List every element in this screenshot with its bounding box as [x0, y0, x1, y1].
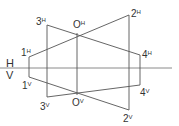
- axis-label-v: V: [6, 70, 13, 80]
- point-label-1H: 1H: [21, 48, 31, 58]
- point-label-3H: 3H: [36, 17, 46, 27]
- point-label-3V: 3V: [40, 102, 50, 112]
- line-3V-4V: [47, 85, 140, 97]
- point-label-2V: 2V: [123, 114, 133, 124]
- point-label-4V: 4V: [140, 88, 150, 98]
- point-label-OV: OV: [72, 98, 84, 108]
- point-label-4H: 4H: [142, 50, 152, 60]
- projection-diagram: [0, 0, 179, 126]
- point-label-1V: 1V: [22, 81, 32, 91]
- point-label-2H: 2H: [131, 9, 141, 19]
- axis-label-h: H: [6, 58, 14, 68]
- point-label-OH: OH: [73, 20, 85, 30]
